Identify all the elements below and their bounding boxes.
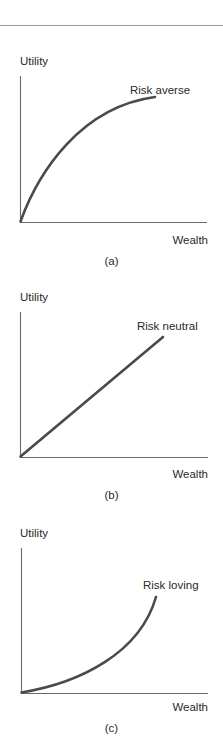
x-axis-label: Wealth xyxy=(172,468,208,480)
curve-annotation: Risk neutral xyxy=(137,320,198,332)
panel-caption: (a) xyxy=(0,255,223,267)
chart-panel-a: Utility Risk averse Wealth (a) xyxy=(0,53,223,271)
panel-caption: (c) xyxy=(0,722,223,734)
chart-panel-c: Utility Risk loving Wealth (c) xyxy=(0,525,223,738)
utility-curve-risk-averse xyxy=(21,97,156,222)
chart-panel-b: Utility Risk neutral Wealth (b) xyxy=(0,289,223,505)
panel-caption: (b) xyxy=(0,489,223,501)
utility-curve-risk-loving xyxy=(22,597,157,693)
curve-annotation: Risk averse xyxy=(130,84,190,96)
x-axis-label: Wealth xyxy=(172,234,208,246)
curve-annotation: Risk loving xyxy=(143,579,199,591)
page-top-rule xyxy=(0,25,223,26)
utility-curve-risk-neutral xyxy=(21,337,164,457)
x-axis-label: Wealth xyxy=(172,701,208,713)
